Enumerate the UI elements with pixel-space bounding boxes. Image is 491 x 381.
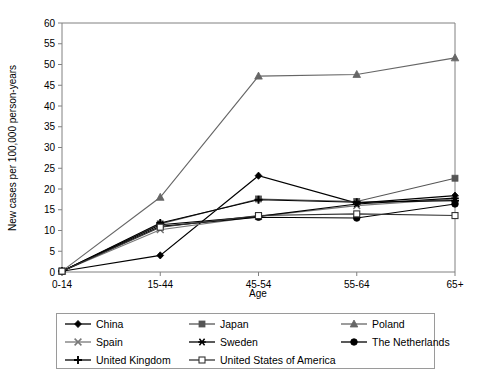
legend-label: Sweden xyxy=(220,336,258,348)
svg-text:40: 40 xyxy=(44,101,56,112)
legend-label: United Kingdom xyxy=(96,354,171,366)
axis-frame xyxy=(62,23,455,272)
series-the-netherlands xyxy=(59,201,459,275)
series-china xyxy=(59,172,459,275)
legend-empty-cell xyxy=(339,351,439,369)
legend-label: United States of America xyxy=(220,354,336,366)
series-united-kingdom xyxy=(58,196,459,275)
svg-text:50: 50 xyxy=(44,59,56,70)
legend-item-united-states-of-america[interactable]: United States of America xyxy=(187,351,339,369)
svg-text:35: 35 xyxy=(44,121,56,132)
filled-circle-icon xyxy=(339,335,369,349)
asterisk-icon xyxy=(187,335,217,349)
svg-text:65+: 65+ xyxy=(447,279,464,290)
svg-text:15-44: 15-44 xyxy=(147,279,173,290)
series-spain xyxy=(59,196,459,275)
svg-text:0: 0 xyxy=(49,267,55,278)
legend-item-sweden[interactable]: Sweden xyxy=(187,333,339,351)
svg-text:60: 60 xyxy=(44,18,56,29)
x-axis-title: Age xyxy=(249,288,267,299)
legend-item-poland[interactable]: Poland xyxy=(339,315,439,333)
legend-item-china[interactable]: China xyxy=(63,315,187,333)
line-chart-svg: 051015202530354045505560 0-1415-4445-545… xyxy=(0,0,491,300)
legend-label: Poland xyxy=(372,318,405,330)
svg-text:5: 5 xyxy=(49,246,55,257)
legend-item-japan[interactable]: Japan xyxy=(187,315,339,333)
filled-square-icon xyxy=(187,317,217,331)
svg-text:55-64: 55-64 xyxy=(344,279,370,290)
chart-legend: ChinaJapanPolandSpainSwedenThe Netherlan… xyxy=(56,313,435,369)
legend-label: Spain xyxy=(96,336,123,348)
legend-item-spain[interactable]: Spain xyxy=(63,333,187,351)
legend-label: Japan xyxy=(220,318,249,330)
svg-text:30: 30 xyxy=(44,142,56,153)
legend-label: The Netherlands xyxy=(372,336,450,348)
y-axis-title: New cases per 100,000 person-years xyxy=(7,65,18,231)
y-axis-ticks: 051015202530354045505560 xyxy=(44,18,62,278)
legend-grid: ChinaJapanPolandSpainSwedenThe Netherlan… xyxy=(57,314,434,368)
series-japan xyxy=(59,175,458,274)
series-poland xyxy=(58,54,459,274)
plot-area: 051015202530354045505560 0-1415-4445-545… xyxy=(0,0,491,300)
svg-text:55: 55 xyxy=(44,38,56,49)
legend-item-united-kingdom[interactable]: United Kingdom xyxy=(63,351,187,369)
legend-label: China xyxy=(96,318,123,330)
filled-triangle-icon xyxy=(339,317,369,331)
x-cross-icon xyxy=(63,335,93,349)
svg-text:0-14: 0-14 xyxy=(52,279,72,290)
filled-diamond-icon xyxy=(63,317,93,331)
open-square-icon xyxy=(187,353,217,367)
series-layer xyxy=(58,54,459,275)
svg-text:15: 15 xyxy=(44,204,56,215)
chart-figure: 051015202530354045505560 0-1415-4445-545… xyxy=(0,0,491,381)
svg-text:20: 20 xyxy=(44,184,56,195)
legend-item-the-netherlands[interactable]: The Netherlands xyxy=(339,333,439,351)
svg-text:45: 45 xyxy=(44,80,56,91)
svg-text:10: 10 xyxy=(44,225,56,236)
svg-text:25: 25 xyxy=(44,163,56,174)
plus-icon xyxy=(63,353,93,367)
